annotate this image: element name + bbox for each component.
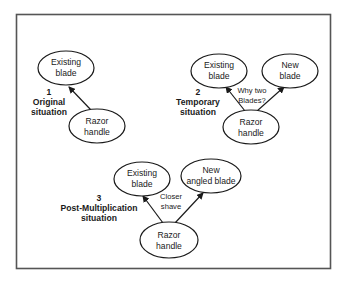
diagram-canvas: Existing blade Razor handle 1 Original s… <box>0 0 344 283</box>
scenario-number: 2 <box>196 87 201 97</box>
scenario-number: 1 <box>47 87 52 97</box>
edge-note-line-1: Closer <box>160 192 182 201</box>
scenario-number: 3 <box>97 193 102 203</box>
scenario-2: Existing blade New blade Razor handle Wh… <box>176 54 318 144</box>
edge-note-line-2: Blades? <box>238 96 265 105</box>
scenario-1: Existing blade Razor handle 1 Original s… <box>31 51 125 143</box>
node-razor-handle: Razor handle <box>223 110 279 144</box>
node-line-2: blade <box>208 71 229 81</box>
node-line-1: Razor <box>240 117 263 127</box>
node-line-1: Existing <box>51 57 81 67</box>
scenario-3: Existing blade New angled blade Razor ha… <box>61 159 241 258</box>
node-existing-blade: Existing blade <box>38 51 94 85</box>
node-line-1: Razor <box>86 116 109 126</box>
edge-note: Closer shave <box>160 192 182 211</box>
node-line-1: New <box>202 165 220 175</box>
scenario-title-line-2: situation <box>31 107 67 117</box>
node-line-2: blade <box>55 68 76 78</box>
node-line-1: Existing <box>127 168 157 178</box>
scenario-label: 2 Temporary situation <box>176 87 220 117</box>
node-shape <box>69 109 125 143</box>
node-line-1: Existing <box>204 60 234 70</box>
scenario-title-line-1: Original <box>33 97 65 107</box>
edge-handle-to-existing-blade <box>69 87 91 110</box>
node-line-1: New <box>281 60 299 70</box>
node-line-2: handle <box>156 241 182 251</box>
scenario-title-line-2: situation <box>81 213 117 223</box>
node-shape <box>223 110 279 144</box>
node-new-blade: New blade <box>262 54 318 88</box>
scenario-title-line-2: situation <box>180 107 216 117</box>
node-line-2: handle <box>238 128 264 138</box>
scenario-title-line-1: Temporary <box>176 97 220 107</box>
node-line-2: handle <box>84 127 110 137</box>
node-new-angled-blade: New angled blade <box>181 159 241 193</box>
edge-note-line-2: shave <box>161 202 181 211</box>
node-line-2: blade <box>279 71 300 81</box>
scenario-title-line-1: Post-Multiplication <box>61 203 138 213</box>
node-shape <box>140 222 198 258</box>
node-line-2: angled blade <box>186 176 235 186</box>
scenario-label: 1 Original situation <box>31 87 67 117</box>
edge-note-line-1: Why two <box>237 86 266 95</box>
node-existing-blade: Existing blade <box>191 54 247 88</box>
node-line-2: blade <box>131 179 152 189</box>
node-razor-handle: Razor handle <box>140 222 198 258</box>
scenario-label: 3 Post-Multiplication situation <box>61 193 138 223</box>
node-existing-blade: Existing blade <box>114 162 170 196</box>
edge-note: Why two Blades? <box>237 86 266 105</box>
node-razor-handle: Razor handle <box>69 109 125 143</box>
node-line-1: Razor <box>158 230 181 240</box>
